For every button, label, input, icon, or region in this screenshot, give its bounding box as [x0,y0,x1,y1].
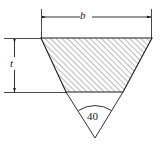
cross-section-drawing [0,0,164,146]
trapezoid-hatching [41,38,152,92]
included-angle-label: 40 [87,111,98,122]
hatched-trapezoid [41,38,152,92]
figure-container: b t 40 [0,0,164,146]
apex-right-edge [95,92,123,138]
width-dimension-group [42,9,152,38]
width-dimension-label: b [80,10,86,21]
depth-dimension-label: t [10,58,13,69]
